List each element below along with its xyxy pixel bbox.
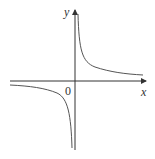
x-axis-label: x <box>140 85 147 99</box>
origin-label: 0 <box>65 84 71 98</box>
curve-branch-positive <box>78 14 143 75</box>
graph-canvas: y 0 x <box>0 0 155 159</box>
y-axis-label: y <box>63 5 70 19</box>
curve-branch-negative <box>10 85 72 148</box>
